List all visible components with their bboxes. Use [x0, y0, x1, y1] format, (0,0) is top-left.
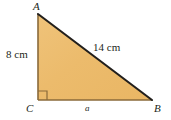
geometry-figure: A C B 8 cm 14 cm a	[0, 0, 171, 120]
vertex-label-c: C	[26, 103, 34, 114]
side-variable-label-horizontal-leg: a	[85, 104, 90, 113]
vertex-label-a: A	[33, 1, 40, 12]
side-length-label-hypotenuse: 14 cm	[93, 42, 120, 53]
side-length-label-vertical-leg: 8 cm	[6, 49, 28, 60]
vertex-label-b: B	[154, 103, 161, 114]
